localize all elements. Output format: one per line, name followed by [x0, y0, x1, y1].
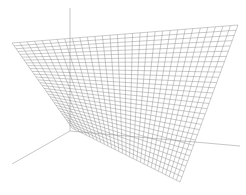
- mesh-line-u: [173, 26, 223, 178]
- mesh-line-u: [166, 27, 208, 174]
- mesh-line-u: [162, 28, 200, 173]
- mesh-line-u: [180, 25, 238, 182]
- mesh-line-u: [169, 27, 215, 177]
- saddle-surface-plot: [0, 0, 246, 195]
- mesh-line-u: [133, 33, 140, 159]
- y-axis: [70, 131, 240, 146]
- x-axis: [12, 131, 70, 164]
- saddle-wireframe-mesh: [12, 25, 238, 182]
- mesh-line-u: [140, 32, 155, 163]
- mesh-line-u: [155, 29, 185, 169]
- mesh-line-u: [158, 29, 192, 172]
- mesh-line-u: [137, 32, 148, 160]
- mesh-line-u: [176, 26, 230, 181]
